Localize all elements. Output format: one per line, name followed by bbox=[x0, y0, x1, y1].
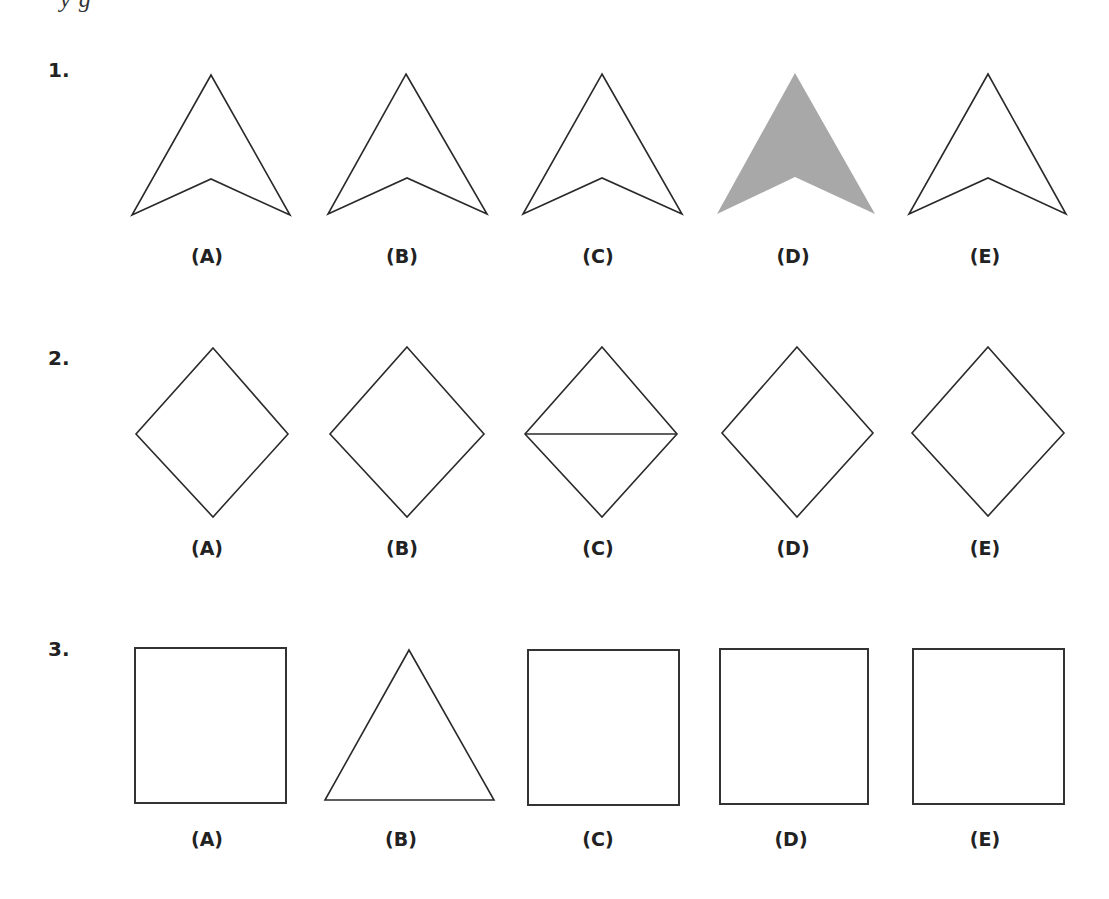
q2-option-a-diamond[interactable] bbox=[136, 348, 288, 517]
q2-option-d-label: (D) bbox=[776, 537, 809, 559]
q1-option-b-arrowhead[interactable] bbox=[328, 74, 487, 214]
q1-option-c-arrowhead[interactable] bbox=[523, 74, 682, 214]
q1-option-c-label: (C) bbox=[582, 245, 613, 267]
q2-option-a-label: (A) bbox=[191, 537, 223, 559]
q1-option-e-arrowhead[interactable] bbox=[909, 74, 1066, 214]
q3-option-e-square[interactable] bbox=[913, 649, 1064, 804]
q3-option-a-square[interactable] bbox=[135, 648, 286, 803]
question-1-figures bbox=[132, 73, 1066, 215]
q1-option-d-label: (D) bbox=[776, 245, 809, 267]
figures-canvas bbox=[0, 0, 1109, 899]
q3-option-d-square[interactable] bbox=[720, 649, 868, 804]
q2-option-b-label: (B) bbox=[386, 537, 418, 559]
question-3-figures bbox=[135, 648, 1064, 805]
q2-option-c-label: (C) bbox=[582, 537, 613, 559]
q1-option-a-arrowhead[interactable] bbox=[132, 75, 290, 215]
q3-option-c-label: (C) bbox=[582, 828, 613, 850]
q2-option-e-diamond[interactable] bbox=[912, 347, 1064, 516]
q3-option-c-square[interactable] bbox=[528, 650, 679, 805]
q3-option-b-triangle[interactable] bbox=[325, 650, 494, 800]
question-2-figures bbox=[136, 347, 1064, 517]
q2-option-e-label: (E) bbox=[970, 537, 1000, 559]
q3-option-a-label: (A) bbox=[191, 828, 223, 850]
q2-option-b-diamond[interactable] bbox=[330, 347, 484, 517]
q1-option-a-label: (A) bbox=[191, 245, 223, 267]
q1-option-d-arrowhead-shaded[interactable] bbox=[717, 73, 875, 214]
q3-option-e-label: (E) bbox=[970, 828, 1000, 850]
q1-option-b-label: (B) bbox=[386, 245, 418, 267]
q2-option-c-diamond-with-line[interactable] bbox=[525, 347, 677, 517]
q1-option-e-label: (E) bbox=[970, 245, 1000, 267]
q3-option-b-label: (B) bbox=[385, 828, 417, 850]
q2-option-d-diamond[interactable] bbox=[722, 347, 873, 517]
q3-option-d-label: (D) bbox=[774, 828, 807, 850]
